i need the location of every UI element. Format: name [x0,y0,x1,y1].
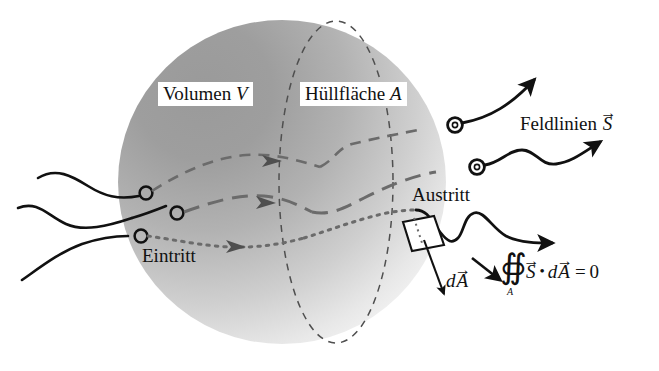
label-envelope-surface-text: Hüllfläche [305,83,385,104]
volume-sphere [118,20,446,344]
integral-subscript: A [507,286,513,297]
label-area-element-vector: →A [456,270,470,292]
label-envelope-surface: Hüllfläche A [300,83,407,105]
label-exit: Austritt [412,184,470,206]
vector-accent-icon: → [455,262,471,278]
formula-result: 0 [590,261,600,282]
closed-surface-integral-icon: ∯ A [500,258,523,292]
vector-accent-icon: → [600,105,616,121]
exit-marker-middle [470,160,485,175]
diagram-canvas [0,0,659,371]
formula-equals: = [571,261,590,282]
label-field-lines: Feldlinien →S [520,113,613,135]
label-volume-variable: V [236,83,248,104]
label-area-element: d→A [446,270,469,292]
label-field-lines-text: Feldlinien [520,113,597,134]
area-normal-arrow [424,240,444,294]
label-volume-text: Volumen [163,83,231,104]
exit-marker-top [448,118,463,133]
label-entry: Eintritt [142,245,196,267]
label-envelope-surface-variable: A [390,83,402,104]
field-lines-flux-diagram: Volumen V Hüllfläche A Feldlinien →S Aus… [0,0,659,371]
label-exit-text: Austritt [412,184,470,205]
formula-area-vector: →A [557,261,571,283]
vector-accent-icon: → [523,253,539,269]
label-entry-text: Eintritt [142,245,196,266]
label-volume: Volumen V [158,83,253,105]
flux-formula: ∯ A →S•d→A=0 [500,258,599,292]
formula-pointer-arrow [472,258,500,280]
vector-accent-icon: → [556,253,572,269]
formula-field-vector: →S [525,261,537,283]
formula-body: →S•d→A=0 [525,258,599,283]
label-field-lines-vector: →S [602,113,614,135]
